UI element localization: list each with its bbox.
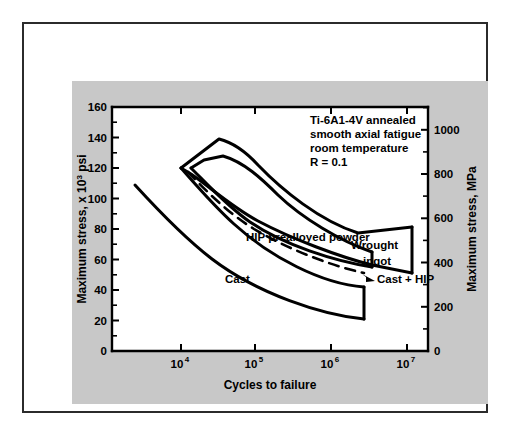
y-tick-label: 40 — [94, 284, 107, 296]
x-tick-exponent: 7 — [411, 355, 416, 364]
label-cast-plus-hip: Cast + HIP — [377, 273, 435, 285]
x-tick-exponent: 6 — [335, 355, 340, 364]
x-tick-mantissa: 10 — [245, 358, 258, 370]
x-tick-label: 10 5 — [245, 355, 264, 370]
annotation-line-4: R = 0.1 — [310, 156, 348, 168]
y-tick-label: 140 — [88, 132, 107, 144]
y-tick-label: 80 — [94, 223, 107, 235]
y-tick-label-right: 600 — [434, 212, 453, 224]
y-axis-title-text: Maximum stress, x 10 — [75, 179, 89, 303]
annotation-line-2: smooth axial fatigue — [310, 128, 421, 140]
y-tick-label-right: 400 — [434, 257, 453, 269]
svg-text:Maximum stress, x 103 psi: Maximum stress, x 103 psi — [75, 154, 89, 303]
x-tick-label: 10 4 — [171, 355, 190, 370]
y-axis-tick-labels: 160 140 120 100 80 60 40 20 0 — [88, 101, 107, 357]
y-tick-label: 20 — [94, 315, 107, 327]
figure-frame: Ti-6A1-4V annealed smooth axial fatigue … — [22, 22, 488, 413]
y-axis-right-tick-labels: 1000 800 600 400 200 0 — [434, 124, 460, 357]
x-tick-mantissa: 10 — [397, 358, 410, 370]
x-tick-label: 10 6 — [321, 355, 340, 370]
label-wrought-ingot-line2: ingot — [363, 255, 391, 267]
annotation-line-1: Ti-6A1-4V annealed — [310, 114, 416, 126]
label-cast: Cast — [225, 273, 250, 285]
y-axis-title-right: Maximum stress, MPa — [465, 166, 479, 292]
y-tick-label-right: 0 — [434, 345, 440, 357]
y-axis-title: Maximum stress, x 103 psi — [75, 154, 89, 303]
x-axis-title: Cycles to failure — [224, 378, 317, 392]
chart-panel: Ti-6A1-4V annealed smooth axial fatigue … — [72, 81, 488, 404]
y-tick-label-right: 800 — [434, 168, 453, 180]
x-axis-tick-labels: 10 4 10 5 10 6 10 7 — [171, 355, 416, 370]
y-tick-label-right: 1000 — [434, 124, 460, 136]
y-tick-label: 60 — [94, 254, 107, 266]
annotation-line-3: room temperature — [310, 142, 408, 154]
y-tick-label: 0 — [101, 345, 107, 357]
y-tick-label: 100 — [88, 193, 107, 205]
y-tick-label-right: 200 — [434, 301, 453, 313]
x-tick-mantissa: 10 — [171, 358, 184, 370]
y-tick-label: 160 — [88, 101, 107, 113]
y-tick-label: 120 — [88, 162, 107, 174]
x-tick-exponent: 4 — [185, 355, 190, 364]
x-tick-mantissa: 10 — [321, 358, 334, 370]
fatigue-chart: Ti-6A1-4V annealed smooth axial fatigue … — [72, 81, 488, 404]
y-axis-title-unit: psi — [75, 154, 89, 175]
label-wrought-ingot-line1: Wrought — [351, 239, 398, 251]
x-tick-label: 10 7 — [397, 355, 416, 370]
x-tick-exponent: 5 — [259, 355, 264, 364]
